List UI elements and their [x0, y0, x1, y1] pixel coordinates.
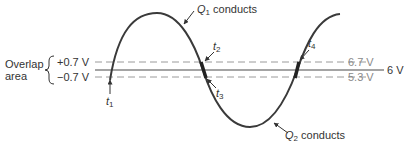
lower-level-label: 5.3 V: [348, 71, 374, 83]
t3-label: t3: [216, 87, 224, 101]
overlap-brace: [45, 56, 54, 84]
center-level-label: 6 V: [387, 64, 404, 76]
overlap-label-line1: Overlap: [5, 58, 44, 70]
t1-label: t1: [106, 95, 114, 109]
q1-arrow: [184, 11, 194, 24]
t2-arrow: [205, 52, 214, 61]
overlap-diagram: Overlap area +0.7 V −0.7 V 6.7 V 6 V 5.3…: [0, 0, 404, 147]
q2-text: conducts: [298, 129, 346, 141]
overlap-label-line2: area: [5, 70, 28, 82]
plus-0.7v-label: +0.7 V: [57, 56, 90, 68]
overlap-segment-t2-t3: [201, 62, 206, 78]
t2-label: t2: [213, 40, 221, 54]
q1-text: conducts: [210, 3, 258, 15]
overlap-segment-t4: [295, 62, 299, 78]
upper-level-label: 6.7 V: [348, 56, 374, 68]
q1-conducts-label: Q1 conducts: [197, 3, 258, 17]
q2-conducts-label: Q2 conducts: [285, 129, 346, 143]
minus-0.7v-label: −0.7 V: [57, 71, 90, 83]
t4-label: t4: [308, 37, 316, 51]
